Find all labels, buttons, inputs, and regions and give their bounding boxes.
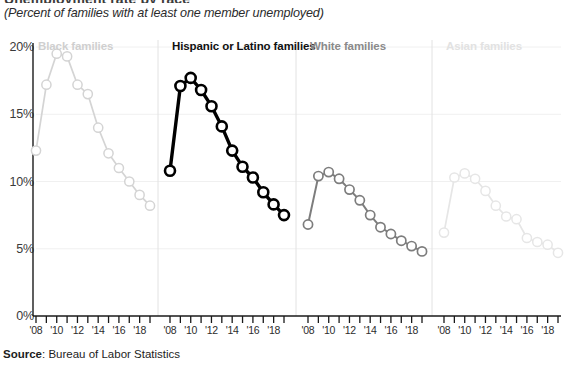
x-axis-tick-label: '18 (541, 324, 554, 336)
x-axis-tick-label: '12 (71, 324, 84, 336)
panel-title-asian-families: Asian families (446, 40, 522, 52)
x-axis-tick-label: '08 (30, 324, 43, 336)
x-axis-tick-label: '18 (133, 324, 146, 336)
panel-title-white-families: White families (310, 40, 386, 52)
data-point-marker (355, 196, 364, 205)
x-axis-tick-label: '14 (500, 324, 513, 336)
data-point-marker (186, 73, 196, 83)
data-point-marker (345, 185, 354, 194)
data-point-marker (522, 233, 531, 242)
data-point-marker (386, 229, 395, 238)
data-point-marker (175, 81, 185, 91)
x-axis-tick-label: '12 (479, 324, 492, 336)
series-white-families (303, 168, 426, 256)
x-axis-tick-label: '08 (438, 324, 451, 336)
data-point-marker (258, 187, 268, 197)
data-point-marker (135, 190, 144, 199)
x-axis-tick-label: '12 (343, 324, 356, 336)
data-point-marker (450, 173, 459, 182)
data-point-marker (165, 166, 175, 176)
data-point-marker (207, 101, 217, 111)
x-axis-tick-label: '10 (322, 324, 335, 336)
series-black-families (31, 49, 154, 210)
data-point-marker (42, 80, 51, 89)
data-point-marker (502, 212, 511, 221)
data-point-marker (104, 149, 113, 158)
data-point-marker (269, 199, 279, 209)
data-point-marker (471, 174, 480, 183)
x-axis-tick-label: '16 (521, 324, 534, 336)
data-point-marker (417, 247, 426, 256)
data-point-marker (397, 236, 406, 245)
data-point-marker (196, 85, 206, 95)
source-value: Bureau of Labor Statistics (48, 348, 180, 360)
x-axis-tick-label: '10 (184, 324, 197, 336)
x-axis-tick-label: '14 (92, 324, 105, 336)
data-point-marker (314, 172, 323, 181)
data-point-marker (279, 210, 289, 220)
x-axis-tick-label: '18 (267, 324, 280, 336)
data-point-marker (335, 174, 344, 183)
data-point-marker (248, 173, 258, 183)
data-point-marker (94, 123, 103, 132)
data-point-marker (481, 186, 490, 195)
data-point-marker (31, 146, 40, 155)
data-point-marker (145, 201, 154, 210)
source-label: Source (3, 348, 42, 360)
data-point-marker (491, 201, 500, 210)
data-point-marker (238, 162, 248, 172)
panel-title-hispanic-or-latino-families: Hispanic or Latino families (172, 40, 316, 52)
x-axis-tick-label: '18 (405, 324, 418, 336)
data-point-marker (63, 52, 72, 61)
data-point-marker (407, 242, 416, 251)
data-point-marker (460, 169, 469, 178)
data-point-marker (439, 228, 448, 237)
data-point-marker (73, 80, 82, 89)
x-axis-tick-label: '08 (302, 324, 315, 336)
panel-title-black-families: Black families (38, 40, 113, 52)
chart-container: Unemployment rate by race (Percent of fa… (0, 0, 565, 366)
source-note: Source: Bureau of Labor Statistics (3, 348, 180, 360)
x-axis-tick-label: '08 (164, 324, 177, 336)
data-point-marker (553, 248, 562, 257)
x-axis-tick-label: '10 (50, 324, 63, 336)
data-point-marker (303, 220, 312, 229)
series-asian-families (439, 169, 562, 258)
data-point-marker (227, 146, 237, 156)
data-point-marker (512, 215, 521, 224)
series-hispanic-or-latino-families (165, 73, 289, 220)
data-point-marker (376, 223, 385, 232)
x-axis-tick-label: '16 (247, 324, 260, 336)
x-axis-tick-label: '16 (385, 324, 398, 336)
x-axis-tick-label: '12 (205, 324, 218, 336)
x-axis-tick-label: '10 (458, 324, 471, 336)
data-point-marker (324, 168, 333, 177)
x-axis-tick-label: '14 (364, 324, 377, 336)
x-axis-tick-label: '16 (113, 324, 126, 336)
data-point-marker (217, 121, 227, 131)
data-point-marker (533, 237, 542, 246)
data-point-marker (366, 211, 375, 220)
x-axis-tick-label: '14 (226, 324, 239, 336)
data-point-marker (543, 240, 552, 249)
data-point-marker (125, 177, 134, 186)
data-point-marker (83, 90, 92, 99)
data-point-marker (114, 163, 123, 172)
